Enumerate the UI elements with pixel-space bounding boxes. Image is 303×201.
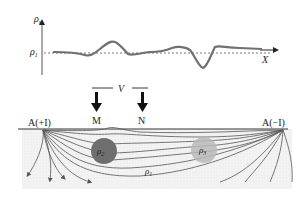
source-left-label: A(+I) [28,117,51,129]
electrode-m-label: M [92,115,101,126]
resistivity-curve [53,42,262,68]
potential-measurement: V M N [91,83,148,126]
baseline-label: ρ1 [29,46,38,58]
arrow-down-icon [137,92,148,112]
y-axis-label: ρs [33,13,42,25]
subsurface-section: ρ2 ρ3 ρ1 A(+I) A(−I) [18,117,292,189]
source-right-label: A(−I) [262,117,285,129]
apparent-resistivity-profile: ρs ρ1 X [29,13,276,75]
x-axis-label: X [261,54,269,65]
electrode-n-label: N [138,115,145,126]
voltage-label: V [118,83,126,94]
resistivity-diagram: ρs ρ1 X V M N [0,0,303,201]
arrow-down-icon [91,92,102,112]
ground-fill [22,129,292,189]
